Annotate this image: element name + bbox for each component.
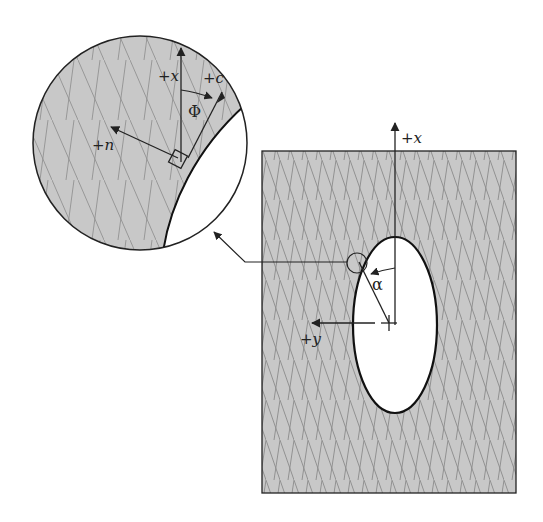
detail-c-label: +c — [203, 69, 225, 87]
detail-view: +x +c +n Φ — [30, 30, 260, 260]
main-x-label: +x — [401, 129, 423, 147]
main-y-label: +y — [300, 330, 322, 348]
alpha-label: α — [372, 275, 383, 294]
plate-hole-diagram: +x +y α +x +c +n Φ — [0, 0, 543, 522]
phi-label: Φ — [188, 102, 201, 121]
detail-x-label: +x — [158, 67, 180, 85]
detail-n-label: +n — [92, 136, 114, 154]
